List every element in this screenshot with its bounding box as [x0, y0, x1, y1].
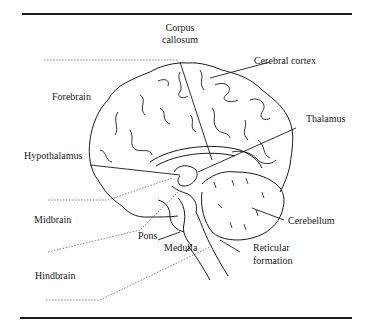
label-pons: Pons — [138, 230, 157, 241]
label-corpus-callosum-line1: Corpus — [150, 22, 210, 33]
cerebrum-outline — [89, 63, 292, 217]
cortex-gyri — [100, 70, 276, 164]
label-forebrain: Forebrain — [52, 91, 91, 102]
label-midbrain: Midbrain — [34, 214, 71, 225]
label-medulla: Medulla — [164, 242, 197, 253]
corpus-callosum-shape — [150, 146, 262, 168]
cerebellum-folia — [214, 178, 264, 230]
pons-shape — [158, 200, 184, 232]
leader-lines — [90, 62, 296, 252]
label-reticular-formation-line2: formation — [253, 255, 292, 266]
cerebellum-shape — [201, 172, 284, 240]
brainstem-shape — [172, 166, 228, 280]
label-hypothalamus: Hypothalamus — [24, 150, 82, 161]
label-cerebellum: Cerebellum — [288, 215, 335, 226]
label-thalamus: Thalamus — [306, 113, 345, 124]
label-corpus-callosum-line2: callosum — [150, 34, 210, 45]
label-cerebral-cortex: Cerebral cortex — [254, 55, 316, 66]
label-hindbrain: Hindbrain — [35, 270, 76, 281]
label-reticular-formation-line1: Reticular — [253, 242, 290, 253]
